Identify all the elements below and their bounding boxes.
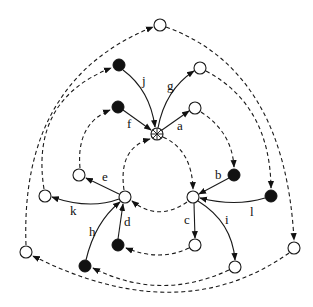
label-j: j xyxy=(141,73,146,88)
label-f: f xyxy=(127,116,132,131)
edge-i xyxy=(198,201,235,260)
label-k: k xyxy=(70,203,77,218)
node-d-source xyxy=(112,239,124,251)
node-h-source xyxy=(79,260,91,272)
label-h: h xyxy=(89,224,96,239)
dashed-edge-i-to-h xyxy=(93,268,229,286)
node-top xyxy=(154,19,166,31)
edge-a xyxy=(162,111,189,130)
label-i: i xyxy=(225,212,229,227)
dashed-edge-top-to-right-outer xyxy=(166,27,294,240)
node-c-target xyxy=(189,239,201,251)
solid-edges xyxy=(52,70,265,260)
node-j-source xyxy=(113,59,125,71)
label-a: a xyxy=(177,118,183,133)
edge-l xyxy=(200,198,265,203)
node-a-target xyxy=(189,102,201,114)
node-f-source xyxy=(112,101,124,113)
edge-b xyxy=(199,178,229,194)
node-l-source xyxy=(265,190,277,202)
label-e: e xyxy=(102,169,108,184)
dashed-edge-e-to-f xyxy=(80,110,110,168)
dashed-edge-left-hub-to-center xyxy=(123,139,150,190)
directed-graph-diagram: a b c d e f g h i j k l xyxy=(0,0,313,307)
label-b: b xyxy=(215,167,222,182)
label-l: l xyxy=(250,204,254,219)
center-star-node xyxy=(151,128,163,140)
dashed-edge-a-to-b xyxy=(201,112,234,167)
node-e-target xyxy=(73,169,85,181)
edge-k xyxy=(52,197,119,204)
node-b-source xyxy=(228,169,240,181)
edge-c xyxy=(194,203,195,238)
node-g-target xyxy=(194,62,206,74)
dashed-edges xyxy=(26,27,294,292)
nodes xyxy=(20,19,300,273)
node-right-outer xyxy=(288,242,300,254)
dashed-edge-center-to-right-hub xyxy=(163,137,193,189)
label-d: d xyxy=(124,214,131,229)
edge-labels: a b c d e f g h i j k l xyxy=(70,73,254,239)
node-left-hub xyxy=(119,191,131,203)
node-i-target xyxy=(229,261,241,273)
node-right-hub xyxy=(187,191,199,203)
dashed-edge-c-to-d xyxy=(126,248,189,255)
label-c: c xyxy=(184,212,190,227)
edge-g xyxy=(158,71,194,128)
edge-d xyxy=(118,204,123,239)
dashed-edge-left-outer-to-top xyxy=(26,27,153,245)
node-k-target xyxy=(39,190,51,202)
dashed-edge-right-hub-to-left-hub xyxy=(132,201,187,212)
label-g: g xyxy=(167,78,174,93)
dashed-edge-right-outer-to-left-outer xyxy=(33,253,289,292)
node-left-outer xyxy=(20,246,32,258)
